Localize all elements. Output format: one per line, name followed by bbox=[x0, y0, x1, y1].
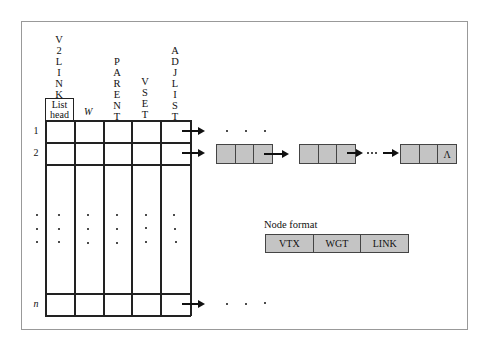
header-letter: R bbox=[110, 78, 124, 89]
arrow-row-2 bbox=[182, 152, 199, 154]
table-line bbox=[45, 120, 191, 122]
header-letter: L bbox=[168, 78, 182, 89]
header-letter: P bbox=[110, 56, 124, 67]
arrow-row-1 bbox=[182, 130, 199, 132]
header-letter: N bbox=[52, 78, 66, 89]
header-letter: A bbox=[168, 45, 182, 56]
null-pointer: Λ bbox=[438, 145, 456, 163]
header-letter: V bbox=[138, 76, 152, 87]
header-letter: T bbox=[138, 109, 152, 120]
header-letter: I bbox=[168, 89, 182, 100]
header-adjlist: A D J L I S T bbox=[168, 45, 182, 122]
table-line bbox=[190, 120, 192, 316]
header-v2link: V 2 L I N K bbox=[52, 34, 66, 100]
table-line bbox=[45, 293, 191, 295]
diagram-frame bbox=[21, 21, 468, 330]
table-line bbox=[45, 120, 47, 316]
link-arrow bbox=[347, 152, 357, 154]
row-label-1: 1 bbox=[30, 125, 42, 136]
header-letter: A bbox=[110, 67, 124, 78]
table-line bbox=[45, 315, 191, 317]
table-line bbox=[131, 120, 133, 316]
table-line bbox=[103, 120, 105, 316]
arrow-row-n bbox=[182, 303, 199, 305]
field-vtx: VTX bbox=[266, 235, 314, 252]
header-letter: S bbox=[168, 100, 182, 111]
list-node bbox=[299, 144, 356, 164]
table-line bbox=[74, 120, 76, 316]
link-arrow bbox=[383, 152, 393, 154]
header-letter: L bbox=[52, 56, 66, 67]
link-arrow bbox=[264, 153, 283, 155]
node-format-box: VTX WGT LINK bbox=[265, 234, 409, 253]
header-letter: I bbox=[52, 67, 66, 78]
list-node-last: Λ bbox=[400, 144, 457, 164]
header-vset: V S E T bbox=[138, 76, 152, 120]
header-letter: D bbox=[168, 56, 182, 67]
header-parent: P A R E N T bbox=[110, 56, 124, 122]
row-label-2: 2 bbox=[30, 147, 42, 158]
node-format-title: Node format bbox=[264, 219, 317, 230]
header-letter: 2 bbox=[52, 45, 66, 56]
table-line bbox=[45, 142, 191, 144]
table-line bbox=[45, 164, 191, 166]
list-head-header: List head bbox=[45, 98, 74, 120]
header-letter: E bbox=[138, 98, 152, 109]
header-letter: N bbox=[110, 100, 124, 111]
header-letter: V bbox=[52, 34, 66, 45]
header-letter: S bbox=[138, 87, 152, 98]
header-letter: J bbox=[168, 67, 182, 78]
list-head-text: head bbox=[46, 110, 73, 120]
row-label-n: n bbox=[30, 298, 42, 309]
w-header: W bbox=[84, 106, 92, 117]
field-link: LINK bbox=[361, 235, 408, 252]
header-letter: E bbox=[110, 89, 124, 100]
table-line bbox=[160, 120, 162, 316]
field-wgt: WGT bbox=[314, 235, 362, 252]
